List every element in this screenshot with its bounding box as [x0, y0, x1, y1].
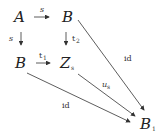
- arrow-Z-to-B1: u s: [78, 74, 135, 116]
- svg-text:Z: Z: [59, 54, 71, 72]
- arrow-A-to-B-left: s: [9, 32, 21, 45]
- arrow-A-to-B-top: s: [34, 5, 49, 17]
- arrow-B-top-to-B1: id: [78, 20, 144, 110]
- node-A: A: [12, 8, 25, 26]
- arrow-B-top-to-Z: t 2: [66, 32, 80, 45]
- svg-text:B: B: [139, 115, 151, 133]
- svg-text:2: 2: [76, 37, 80, 44]
- svg-text:1: 1: [152, 125, 156, 132]
- svg-text:s: s: [107, 83, 110, 90]
- commutative-diagram: A B B Z s B 1 s s t 2 t 1 id u s: [0, 0, 166, 137]
- svg-text:id: id: [62, 101, 70, 110]
- svg-text:1: 1: [43, 54, 47, 61]
- svg-text:s: s: [9, 34, 13, 43]
- svg-text:id: id: [124, 54, 132, 63]
- svg-text:s: s: [71, 64, 74, 71]
- arrow-B-left-to-B1: id: [27, 73, 130, 122]
- node-B-top: B: [61, 8, 73, 26]
- node-Z-s: Z s: [59, 54, 74, 72]
- arrow-B-left-to-Z: t 1: [36, 51, 50, 63]
- node-B-left: B: [14, 54, 26, 72]
- svg-text:s: s: [40, 5, 44, 14]
- node-B1: B 1: [139, 115, 156, 133]
